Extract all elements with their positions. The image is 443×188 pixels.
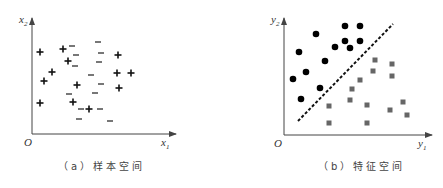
circle-marker	[342, 23, 349, 30]
square-marker	[405, 113, 410, 118]
circle-marker	[357, 38, 364, 45]
panel-b-origin-label: O	[274, 137, 282, 149]
circle-marker	[303, 69, 310, 76]
plus-marker	[49, 69, 56, 76]
circle-marker	[342, 38, 349, 45]
circle-marker	[332, 44, 339, 51]
plus-marker	[37, 100, 44, 107]
plus-marker	[74, 82, 81, 89]
plus-marker	[86, 106, 93, 113]
square-marker	[327, 104, 332, 109]
square-marker	[390, 74, 395, 79]
plus-marker	[41, 78, 48, 85]
square-marker	[348, 98, 353, 103]
circle-marker	[347, 45, 354, 52]
plus-marker	[70, 99, 77, 106]
panel-a-plus-markers	[37, 46, 135, 113]
square-marker	[350, 87, 355, 92]
square-marker	[373, 58, 378, 63]
panel-a-axes: x2 x1 O	[18, 13, 176, 151]
plus-marker	[115, 52, 122, 59]
panel-a-y-axis-label: x2	[18, 13, 28, 28]
square-marker	[365, 121, 370, 126]
square-marker	[365, 103, 370, 108]
circle-marker	[313, 31, 320, 38]
panel-a-caption: （a）样本空间	[58, 158, 145, 173]
panel-b-square-markers	[327, 58, 410, 126]
circle-marker	[317, 85, 324, 92]
circle-marker	[357, 23, 364, 30]
panel-b-x-axis-label: y1	[417, 137, 426, 152]
panel-b-axes: y2 y1 O	[270, 13, 432, 152]
square-marker	[401, 100, 406, 105]
panel-a-x-axis-label: x1	[160, 136, 169, 151]
panel-b-caption: （b）特征空间	[318, 158, 405, 173]
circle-marker	[296, 49, 303, 56]
circle-marker	[298, 96, 305, 103]
square-marker	[327, 121, 332, 126]
plus-marker	[114, 70, 121, 77]
square-marker	[390, 62, 395, 67]
panel-a-origin-label: O	[24, 136, 32, 148]
plus-marker	[116, 85, 123, 92]
panel-b-y-axis-label: y2	[270, 13, 280, 28]
plus-marker	[128, 70, 135, 77]
square-marker	[371, 69, 376, 74]
square-marker	[388, 108, 393, 113]
circle-marker	[290, 76, 297, 83]
plus-marker	[65, 58, 72, 65]
plus-marker	[60, 46, 67, 53]
square-marker	[358, 78, 363, 83]
plus-marker	[37, 49, 44, 56]
circle-marker	[322, 58, 329, 65]
